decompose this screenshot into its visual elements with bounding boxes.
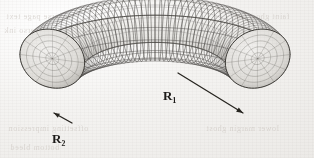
- r2-leader-line: [54, 113, 72, 123]
- label-minor-radius: R₂: [52, 132, 65, 145]
- torus-mesh-lines: [20, 0, 290, 88]
- label-major-radius: R₁: [163, 89, 176, 102]
- torus-wireframe: [0, 0, 314, 158]
- figure-canvas: reverse page text faint ghost line scann…: [0, 0, 314, 158]
- label-major-radius-text: R₁: [163, 88, 176, 103]
- label-minor-radius-text: R₂: [52, 131, 65, 146]
